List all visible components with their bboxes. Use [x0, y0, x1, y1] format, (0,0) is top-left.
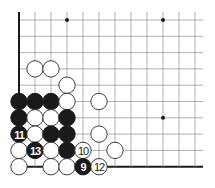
black-stone: [11, 93, 27, 109]
black-stone: [27, 93, 43, 109]
white-stone: [91, 93, 107, 109]
star-point: [161, 18, 165, 22]
stone-disc: [27, 93, 43, 109]
stone-disc: [11, 159, 27, 175]
white-stone: [59, 77, 75, 93]
star-point: [65, 18, 69, 22]
stone-disc: [107, 142, 123, 158]
stone-disc: [59, 93, 75, 109]
black-stone: [11, 110, 27, 126]
stone-disc: [43, 93, 59, 109]
white-stone-10: 10: [75, 142, 91, 158]
white-stone: [27, 110, 43, 126]
stone-disc: [27, 110, 43, 126]
white-stone: [27, 61, 43, 77]
move-number-label: 9: [80, 161, 86, 173]
black-stone: [59, 110, 75, 126]
stone-disc: [43, 61, 59, 77]
black-stone-11: 11: [11, 126, 27, 142]
move-number-label: 10: [78, 145, 89, 157]
stone-disc: [11, 93, 27, 109]
white-stone: [43, 61, 59, 77]
stone-disc: [59, 77, 75, 93]
white-stone: [107, 142, 123, 158]
white-stone: [43, 159, 59, 175]
white-stone: [59, 159, 75, 175]
stone-disc: [43, 126, 59, 142]
white-stone: [59, 93, 75, 109]
black-stone: [59, 142, 75, 158]
stone-disc: [27, 126, 43, 142]
stone-disc: [91, 93, 107, 109]
stone-disc: [11, 142, 27, 158]
move-number-label: 12: [94, 161, 105, 173]
star-point: [161, 116, 165, 120]
move-number-label: 13: [30, 145, 41, 157]
stone-disc: [59, 110, 75, 126]
black-stone: [59, 126, 75, 142]
white-stone: [91, 126, 107, 142]
white-stone: [43, 110, 59, 126]
black-stone: [43, 126, 59, 142]
black-stone-9: 9: [75, 159, 91, 175]
stone-disc: [43, 159, 59, 175]
white-stone: [11, 159, 27, 175]
white-stone: [11, 142, 27, 158]
black-stone-13: 13: [27, 142, 43, 158]
white-stone: [43, 142, 59, 158]
white-stone: [27, 126, 43, 142]
stone-disc: [43, 142, 59, 158]
stone-disc: [11, 110, 27, 126]
stone-disc: [59, 126, 75, 142]
black-stone: [43, 93, 59, 109]
stone-disc: [91, 126, 107, 142]
stone-disc: [43, 110, 59, 126]
stone-disc: [27, 61, 43, 77]
stone-disc: [59, 142, 75, 158]
stone-disc: [59, 159, 75, 175]
white-stone-12: 12: [91, 159, 107, 175]
go-board: 111310912: [0, 0, 215, 188]
move-number-label: 11: [14, 129, 25, 141]
